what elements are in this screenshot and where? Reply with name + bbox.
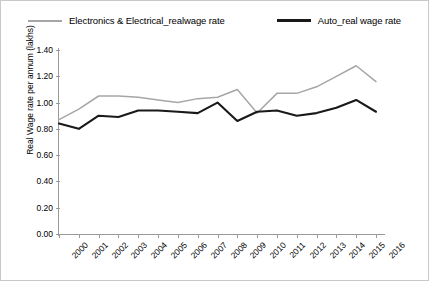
chart-legend: Electronics & Electrical_realwage rate A… — [1, 15, 428, 26]
x-axis-tick-mark — [198, 234, 199, 238]
x-axis-tick-mark — [317, 234, 318, 238]
x-axis-tick-mark — [356, 234, 357, 238]
x-axis-tick-label: 2014 — [347, 240, 367, 260]
x-axis-tick-label: 2003 — [129, 240, 149, 260]
x-axis-tick-label: 2010 — [268, 240, 288, 260]
y-axis-tick-label: 1.00 — [23, 98, 59, 108]
x-axis-tick-mark — [138, 234, 139, 238]
y-axis-tick-label: 0.20 — [23, 203, 59, 213]
y-axis-tick-label: 1.40 — [23, 45, 59, 55]
x-axis-tick-label: 2012 — [307, 240, 327, 260]
x-axis-tick-label: 2016 — [387, 240, 407, 260]
plot-area: 0.000.200.400.600.801.001.201.40 2000200… — [59, 50, 384, 234]
x-axis-tick-label: 2008 — [228, 240, 248, 260]
x-axis-tick-label: 2015 — [367, 240, 387, 260]
legend-item-electronics: Electronics & Electrical_realwage rate — [28, 15, 225, 26]
x-axis-tick-mark — [99, 234, 100, 238]
x-axis-tick-label: 2013 — [327, 240, 347, 260]
x-axis-tick-mark — [218, 234, 219, 238]
y-axis-tick-label: 0.00 — [23, 229, 59, 239]
y-axis-tick-label: 0.60 — [23, 150, 59, 160]
y-axis-tick-label: 1.20 — [23, 71, 59, 81]
x-axis-tick-label: 2005 — [169, 240, 189, 260]
x-axis-tick-label: 2009 — [248, 240, 268, 260]
y-axis-tick-label: 0.40 — [23, 176, 59, 186]
y-axis-tick-label: 0.80 — [23, 124, 59, 134]
x-axis-tick-mark — [237, 234, 238, 238]
chart-container: Electronics & Electrical_realwage rate A… — [0, 0, 429, 281]
series-lines — [59, 50, 384, 234]
x-axis-tick-label: 2002 — [109, 240, 129, 260]
legend-line-swatch-auto — [277, 19, 311, 22]
x-axis-tick-mark — [277, 234, 278, 238]
legend-item-auto: Auto_real wage rate — [277, 15, 401, 26]
x-axis-tick-mark — [59, 234, 60, 238]
x-axis-tick-mark — [118, 234, 119, 238]
x-axis-tick-label: 2006 — [188, 240, 208, 260]
x-axis-tick-mark — [297, 234, 298, 238]
x-axis-tick-label: 2007 — [208, 240, 228, 260]
x-axis-tick-mark — [257, 234, 258, 238]
x-axis-tick-mark — [79, 234, 80, 238]
legend-label-electronics: Electronics & Electrical_realwage rate — [69, 15, 225, 26]
series-line-electronics — [59, 66, 376, 120]
x-axis-tick-label: 2000 — [70, 240, 90, 260]
x-axis-tick-label: 2004 — [149, 240, 169, 260]
x-axis-tick-mark — [336, 234, 337, 238]
legend-label-auto: Auto_real wage rate — [318, 15, 401, 26]
x-axis-tick-label: 2011 — [287, 240, 307, 260]
x-axis-tick-mark — [178, 234, 179, 238]
x-axis-tick-mark — [376, 234, 377, 238]
x-axis-tick-label: 2001 — [89, 240, 109, 260]
x-axis-tick-mark — [158, 234, 159, 238]
series-line-auto — [59, 100, 376, 129]
